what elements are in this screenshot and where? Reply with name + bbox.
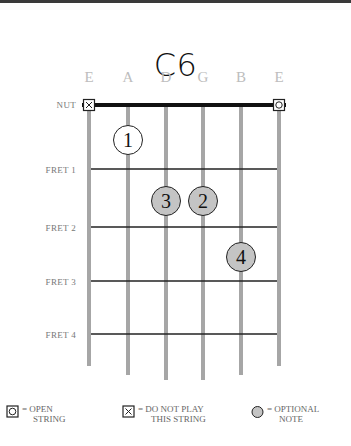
open-marker <box>274 100 285 111</box>
mute-string-icon <box>122 405 136 419</box>
finger-label: 1 <box>123 129 133 151</box>
finger-label: 2 <box>198 190 208 212</box>
legend-optional-line2: NOTE <box>279 414 303 424</box>
legend-open-line2: STRING <box>33 414 66 424</box>
fretboard: 1234 <box>0 0 351 446</box>
legend-open-line1: = OPEN <box>22 404 53 414</box>
finger-label: 3 <box>161 190 171 212</box>
open-string-icon <box>6 405 20 419</box>
optional-note-icon <box>251 405 265 419</box>
legend-mute-line2: THIS STRING <box>151 414 206 424</box>
legend-mute-line1: = DO NOT PLAY <box>138 404 204 414</box>
finger-label: 4 <box>236 246 246 268</box>
legend-optional-line1: = OPTIONAL <box>267 404 319 414</box>
